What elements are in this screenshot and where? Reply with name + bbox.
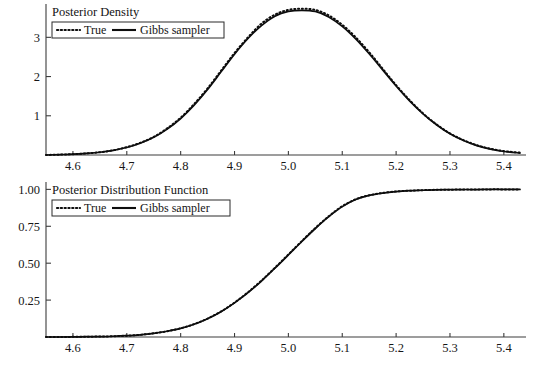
x-tick-label: 5.4 <box>496 159 512 173</box>
x-tick-label: 4.8 <box>173 341 189 355</box>
legend-label-gibbs-sampler: Gibbs sampler <box>140 23 210 37</box>
x-tick-label: 5.0 <box>281 341 297 355</box>
y-tick-label: 0.25 <box>18 294 40 308</box>
y-tick-label: 2 <box>34 70 40 84</box>
y-tick-label: 1.00 <box>18 183 40 197</box>
y-tick-label: 1 <box>34 109 40 123</box>
x-tick-label: 5.3 <box>442 341 458 355</box>
x-tick-label: 5.2 <box>388 341 404 355</box>
panel-posterior-distribution-function: 4.64.74.84.95.05.15.25.35.40.250.500.751… <box>18 182 526 355</box>
panel-title: Posterior Distribution Function <box>52 183 209 197</box>
legend-label-gibbs-sampler: Gibbs sampler <box>140 201 210 215</box>
x-tick-label: 5.1 <box>334 159 350 173</box>
x-tick-label: 5.0 <box>281 159 297 173</box>
posterior-plots-svg: 4.64.74.84.95.05.15.25.35.4123Posterior … <box>0 0 534 365</box>
x-tick-label: 4.6 <box>65 159 81 173</box>
x-tick-label: 4.6 <box>65 341 81 355</box>
figure-canvas: 4.64.74.84.95.05.15.25.35.4123Posterior … <box>0 0 534 365</box>
x-tick-label: 4.7 <box>119 159 135 173</box>
y-tick-label: 0.50 <box>18 257 40 271</box>
panel-posterior-density: 4.64.74.84.95.05.15.25.35.4123Posterior … <box>34 4 526 173</box>
x-tick-label: 4.8 <box>173 159 189 173</box>
x-tick-label: 5.3 <box>442 159 458 173</box>
x-tick-label: 4.9 <box>227 341 243 355</box>
panel-title: Posterior Density <box>52 5 140 19</box>
x-tick-label: 4.9 <box>227 159 243 173</box>
y-tick-label: 3 <box>34 31 40 45</box>
x-tick-label: 4.7 <box>119 341 135 355</box>
legend-label-true: True <box>84 23 106 37</box>
x-tick-label: 5.2 <box>388 159 404 173</box>
x-tick-label: 5.4 <box>496 341 512 355</box>
legend-label-true: True <box>84 201 106 215</box>
x-tick-label: 5.1 <box>334 341 350 355</box>
y-tick-label: 0.75 <box>18 220 40 234</box>
